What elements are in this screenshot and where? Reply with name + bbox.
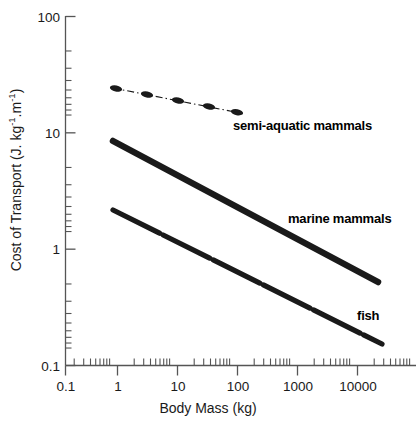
series-fish [113,210,382,344]
y-tick-label-100: 100 [10,10,60,25]
x-axis-major-ticks [66,366,358,376]
y-axis-title-mid: .m [8,102,24,118]
y-axis-title-sup-m: -1 [6,93,17,101]
series-label-fish: fish [357,308,379,323]
x-tick-label-100: 100 [227,379,250,394]
series-semi-aquatic-marker [171,96,184,104]
series-label-marine-mammals: marine mammals [288,211,391,226]
series-label-semi-aquatic-mammals: semi-aquatic mammals [233,118,372,133]
x-tick-label-10000: 10000 [339,379,377,394]
series-semi-aquatic-marker [109,84,122,92]
x-tick-label-1: 1 [114,379,122,394]
y-axis-title: Cost of Transport (J. kg-1.m-1) [6,30,24,330]
x-tick-label-0.1: 0.1 [57,379,76,394]
y-axis-title-main: Cost of Transport (J. kg [8,126,24,272]
chart-figure: 100 10 1 0.1 0.1 1 10 100 1000 10000 Bod… [0,0,416,427]
series-semi-aquatic-marker [202,102,215,110]
x-axis-title: Body Mass (kg) [0,400,416,416]
series-semi-aquatic-mammals [109,84,243,116]
x-tick-label-10: 10 [170,379,185,394]
y-axis-title-sup-kg: -1 [6,117,17,125]
series-semi-aquatic-marker [230,108,243,116]
y-axis-title-end: ) [8,89,24,94]
y-tick-label-0.1: 0.1 [10,359,60,374]
series-fish-line [113,210,382,344]
series-semi-aquatic-marker [140,90,153,98]
x-tick-label-1000: 1000 [283,379,313,394]
x-axis-minor-ticks [74,359,409,366]
y-axis-minor-ticks [66,51,72,348]
